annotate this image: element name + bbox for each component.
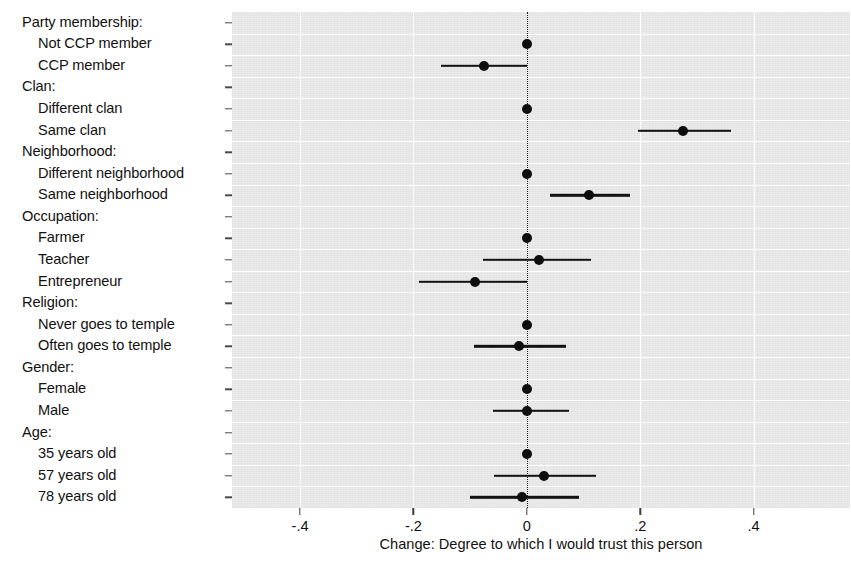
category-label: Farmer [38, 230, 84, 245]
y-axis-tick [225, 346, 232, 347]
point-estimate-marker [678, 126, 688, 136]
point-estimate-marker [522, 39, 532, 49]
horizontal-gridline [232, 443, 850, 444]
horizontal-gridline [232, 55, 850, 56]
y-axis-tick [225, 259, 232, 260]
category-label: Teacher [38, 252, 89, 267]
y-axis-tick [225, 151, 232, 152]
category-label: Same clan [38, 123, 106, 138]
horizontal-gridline [232, 271, 850, 272]
category-label: Not CCP member [38, 36, 152, 51]
y-axis-tick [225, 44, 232, 45]
horizontal-gridline [232, 185, 850, 186]
category-group-label: Neighborhood: [22, 144, 116, 159]
point-estimate-marker [539, 471, 549, 481]
x-axis-tick [299, 508, 300, 515]
horizontal-gridline [232, 228, 850, 229]
y-axis-tick [225, 302, 232, 303]
x-axis-tick-label: -.4 [292, 518, 309, 534]
x-axis-tick-label: -.2 [405, 518, 422, 534]
horizontal-gridline [232, 379, 850, 380]
y-axis-tick [225, 367, 232, 368]
category-group-label: Clan: [22, 79, 56, 94]
y-axis-tick [225, 130, 232, 131]
y-axis-tick [225, 108, 232, 109]
horizontal-gridline [232, 77, 850, 78]
x-axis-tick-label: .4 [748, 518, 760, 534]
category-group-label: Party membership: [22, 15, 143, 30]
category-label: Often goes to temple [38, 338, 171, 353]
category-label: Entrepreneur [38, 274, 122, 289]
y-axis-tick [225, 216, 232, 217]
x-axis-tick [526, 508, 527, 515]
x-axis-title: Change: Degree to which I would trust th… [232, 536, 850, 552]
x-axis-tick [753, 508, 754, 515]
horizontal-gridline [232, 422, 850, 423]
horizontal-gridline [232, 141, 850, 142]
category-label: 35 years old [38, 446, 116, 461]
point-estimate-marker [522, 233, 532, 243]
y-axis-label-column: Party membership:Not CCP memberCCP membe… [0, 0, 228, 520]
horizontal-gridline [232, 335, 850, 336]
horizontal-gridline [232, 249, 850, 250]
y-axis-tick [225, 389, 232, 390]
y-axis-tick [225, 410, 232, 411]
horizontal-gridline [232, 34, 850, 35]
horizontal-gridline [232, 292, 850, 293]
point-estimate-marker [470, 277, 480, 287]
y-axis-tick [225, 432, 232, 433]
y-axis-tick [225, 497, 232, 498]
x-axis-tick-label: .2 [634, 518, 646, 534]
horizontal-gridline [232, 314, 850, 315]
y-axis-tick [225, 475, 232, 476]
horizontal-gridline [232, 98, 850, 99]
horizontal-gridline [232, 486, 850, 487]
y-axis-tick [225, 238, 232, 239]
category-label: Different neighborhood [38, 166, 184, 181]
point-estimate-marker [479, 61, 489, 71]
y-axis-tick [225, 453, 232, 454]
category-group-label: Gender: [22, 360, 74, 375]
horizontal-gridline [232, 163, 850, 164]
y-axis-tick [225, 173, 232, 174]
category-label: Female [38, 381, 86, 396]
vertical-gridline [640, 12, 641, 508]
category-label: 57 years old [38, 468, 116, 483]
category-group-label: Age: [22, 425, 52, 440]
vertical-gridline [754, 12, 755, 508]
y-axis-tick [225, 65, 232, 66]
point-estimate-marker [522, 320, 532, 330]
point-estimate-marker [522, 104, 532, 114]
point-estimate-marker [517, 492, 527, 502]
category-label: Same neighborhood [38, 187, 168, 202]
category-label: Male [38, 403, 69, 418]
y-axis-tick [225, 22, 232, 23]
category-label: 78 years old [38, 489, 116, 504]
y-axis-tick [225, 281, 232, 282]
vertical-gridline [300, 12, 301, 508]
y-axis-ticks [225, 12, 233, 508]
x-axis-tick [640, 508, 641, 515]
x-axis-tick [413, 508, 414, 515]
horizontal-gridline [232, 120, 850, 121]
y-axis-tick [225, 324, 232, 325]
horizontal-gridline [232, 400, 850, 401]
horizontal-gridline [232, 465, 850, 466]
point-estimate-marker [522, 384, 532, 394]
category-label: Different clan [38, 101, 122, 116]
x-axis-tick-label: 0 [523, 518, 531, 534]
point-estimate-marker [522, 169, 532, 179]
point-estimate-marker [534, 255, 544, 265]
horizontal-gridline [232, 357, 850, 358]
point-estimate-marker [522, 406, 532, 416]
coefficient-plot-figure: Party membership:Not CCP memberCCP membe… [0, 0, 851, 566]
category-group-label: Occupation: [22, 209, 99, 224]
y-axis-tick [225, 195, 232, 196]
plot-area [232, 12, 850, 508]
y-axis-tick [225, 87, 232, 88]
vertical-gridline [413, 12, 414, 508]
category-label: CCP member [38, 58, 125, 73]
category-label: Never goes to temple [38, 317, 175, 332]
point-estimate-marker [522, 449, 532, 459]
point-estimate-marker [514, 341, 524, 351]
